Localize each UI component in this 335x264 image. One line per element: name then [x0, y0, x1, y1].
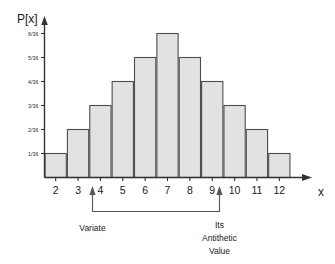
antithetic-annotation-line2: Antithetic [202, 233, 238, 243]
y-axis-arrowhead [41, 16, 48, 25]
bar [67, 130, 88, 178]
x-tick-label: 5 [120, 184, 126, 196]
x-tick-label: 11 [251, 184, 262, 196]
antithetic-annotation-line3: Value [209, 246, 230, 256]
y-tick-label: 2/36 [28, 127, 39, 133]
probability-distribution-figure: P[x] x 6/365/364/363/362/361/36 23456789… [0, 0, 335, 264]
antithetic-pair-bracket [89, 186, 222, 212]
y-tick-label: 1/36 [28, 151, 39, 157]
bar [157, 34, 178, 178]
x-tick-label: 2 [53, 184, 59, 196]
bar-series [45, 34, 290, 178]
bar [112, 82, 133, 178]
y-tick-labels: 6/365/364/363/362/361/36 [28, 31, 39, 157]
x-tick-label: 4 [97, 184, 103, 196]
y-axis-label: P[x] [17, 12, 38, 26]
x-tick-labels: 23456789101112 [53, 184, 286, 196]
x-tick-label: 12 [273, 184, 285, 196]
bar [269, 154, 290, 178]
bracket-arrowhead-right [216, 186, 222, 195]
bar [135, 58, 156, 178]
bar [224, 106, 245, 178]
x-tick-label: 9 [209, 184, 215, 196]
x-tick-label: 10 [229, 184, 241, 196]
bar [246, 130, 267, 178]
x-tick-label: 6 [142, 184, 148, 196]
x-tick-label: 7 [165, 184, 171, 196]
bracket-arrowhead-left [89, 186, 95, 195]
chart-canvas: P[x] x 6/365/364/363/362/361/36 23456789… [0, 0, 335, 264]
x-axis-label: x [318, 185, 324, 199]
variate-annotation-label: Variate [79, 223, 106, 233]
bar [202, 82, 223, 178]
x-tick-label: 8 [187, 184, 193, 196]
y-tick-label: 5/36 [28, 55, 39, 61]
x-tick-label: 3 [75, 184, 81, 196]
antithetic-annotation-line1: Its [215, 220, 224, 230]
bracket-path [93, 192, 220, 212]
bar [90, 106, 111, 178]
y-tick-label: 4/36 [28, 79, 39, 85]
y-tick-label: 3/36 [28, 103, 39, 109]
x-axis-arrowhead [302, 174, 312, 181]
y-tick-label: 6/36 [28, 31, 39, 37]
bar [179, 58, 200, 178]
bar [45, 154, 66, 178]
